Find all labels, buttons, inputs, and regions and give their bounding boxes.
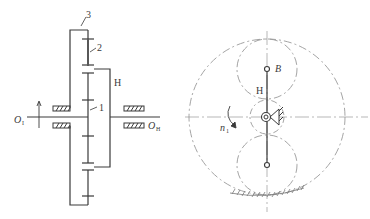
label-input-shaft: O: [14, 114, 21, 125]
label-speed-sub: 1: [226, 128, 229, 134]
gear-train-figure: 3 2 1 H O I O H: [0, 0, 370, 219]
label-planet-center: B: [275, 63, 281, 74]
label-sun-gear: 1: [99, 102, 104, 113]
ring-gear-outline: [70, 30, 88, 108]
label-carrier: H: [114, 77, 121, 88]
label-output-shaft: O: [148, 120, 155, 131]
carrier-arm: [94, 69, 110, 167]
pivot-lower: [265, 163, 270, 168]
pivot-B: [265, 67, 270, 72]
central-pivot-inner: [264, 115, 268, 119]
ring-gear-outline-lower: [70, 126, 88, 205]
label-output-shaft-sub: H: [156, 126, 161, 132]
label-ring-gear: 3: [86, 9, 91, 20]
right-front-view: [185, 31, 368, 212]
label-speed: n: [220, 122, 225, 133]
input-rotation-arrow-icon: [37, 101, 41, 128]
label-carrier-front: H: [256, 85, 263, 96]
label-input-shaft-sub: I: [22, 120, 24, 126]
fixed-support-icon: [270, 107, 283, 125]
label-planet-gear: 2: [97, 42, 102, 53]
left-side-view: [27, 17, 160, 205]
